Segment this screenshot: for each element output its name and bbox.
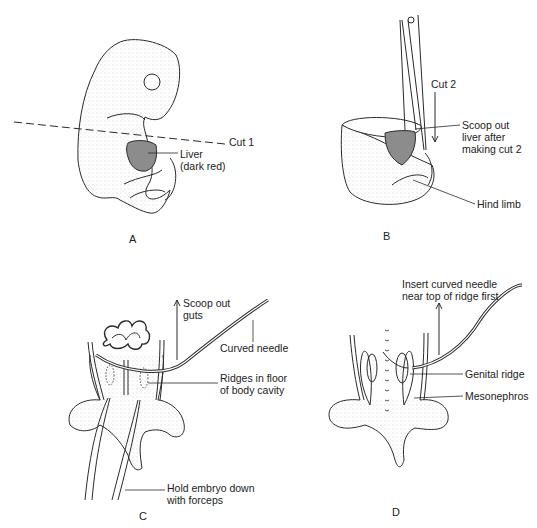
label-insert-needle-1: Insert curved needle bbox=[402, 278, 497, 290]
label-hold-forceps-2: with forceps bbox=[167, 494, 223, 506]
label-liver: Liver bbox=[180, 148, 203, 160]
label-hind-limb: Hind limb bbox=[477, 198, 521, 210]
label-ridges-1: Ridges in floor bbox=[220, 372, 287, 384]
panel-letter-d: D bbox=[392, 506, 400, 518]
dissection-figure bbox=[0, 0, 537, 528]
label-hold-forceps-1: Hold embryo down bbox=[167, 482, 255, 494]
label-liver-color: (dark red) bbox=[180, 160, 226, 172]
label-scoop-liver-1: Scoop out bbox=[462, 119, 509, 131]
panel-letter-b: B bbox=[383, 230, 390, 242]
label-cut-1: Cut 1 bbox=[229, 136, 254, 148]
panel-b-embryo bbox=[341, 15, 475, 204]
panel-a-embryo bbox=[14, 40, 225, 214]
label-genital-ridge: Genital ridge bbox=[465, 368, 525, 380]
label-curved-needle: Curved needle bbox=[220, 342, 288, 354]
label-scoop-guts-2: guts bbox=[183, 309, 203, 321]
label-ridges-2: of body cavity bbox=[220, 384, 284, 396]
panel-letter-c: C bbox=[139, 510, 147, 522]
panel-c-dissection bbox=[69, 300, 268, 500]
panel-letter-a: A bbox=[129, 233, 136, 245]
label-cut-2: Cut 2 bbox=[431, 78, 456, 90]
label-scoop-liver-2: liver after bbox=[462, 131, 505, 143]
label-insert-needle-2: near top of ridge first bbox=[402, 290, 498, 302]
label-scoop-liver-3: making cut 2 bbox=[462, 143, 522, 155]
label-scoop-guts-1: Scoop out bbox=[183, 297, 230, 309]
label-mesonephros: Mesonephros bbox=[465, 390, 529, 402]
